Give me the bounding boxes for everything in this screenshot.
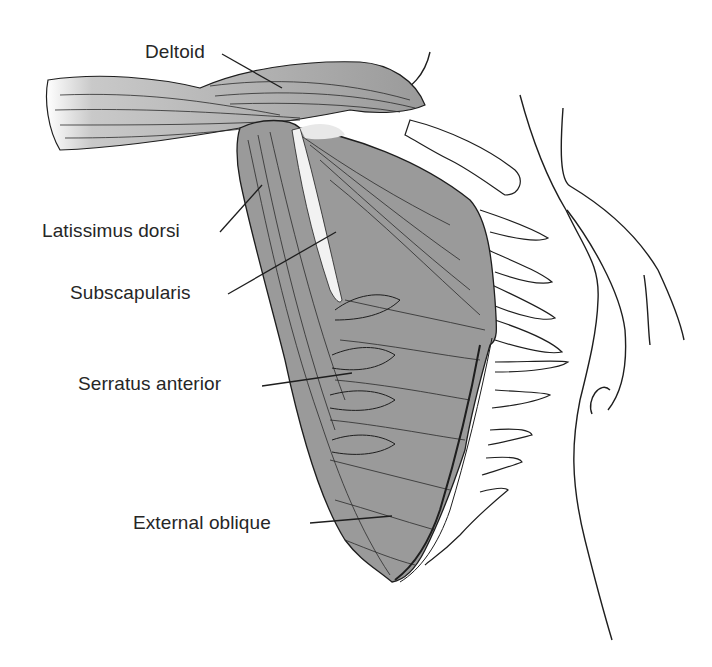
trunk-muscles xyxy=(237,121,496,583)
muscle-illustration xyxy=(0,0,712,667)
label-external-oblique: External oblique xyxy=(133,513,271,532)
label-serratus-anterior: Serratus anterior xyxy=(78,374,221,393)
label-subscapularis: Subscapularis xyxy=(70,283,191,302)
label-latissimus-dorsi: Latissimus dorsi xyxy=(42,221,180,240)
label-deltoid: Deltoid xyxy=(145,42,205,61)
anatomy-diagram: Deltoid Latissimus dorsi Subscapularis S… xyxy=(0,0,712,667)
